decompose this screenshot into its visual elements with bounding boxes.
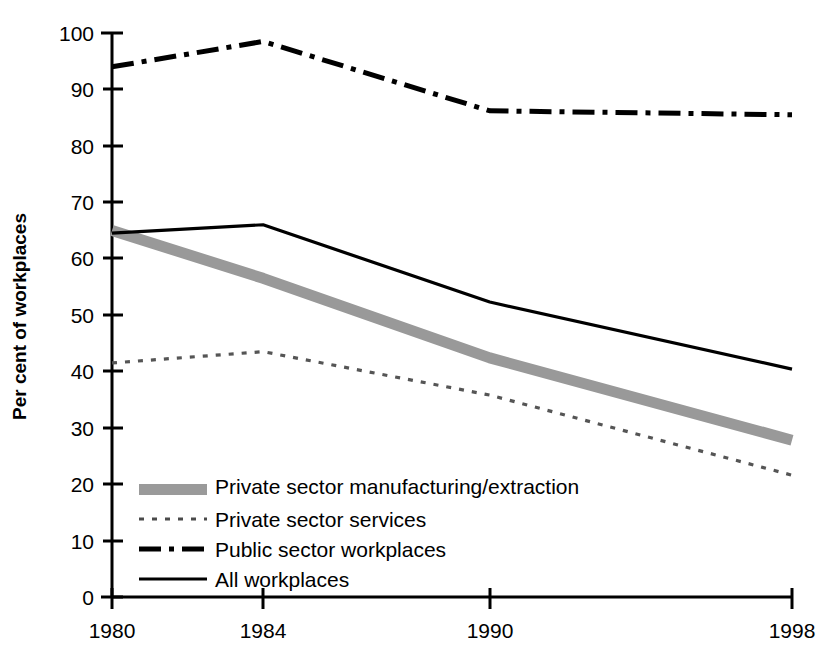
y-tick-label: 100 (59, 22, 94, 45)
legend-label-private-services: Private sector services (215, 508, 426, 531)
line-chart: Per cent of workplaces 100 90 80 70 60 5… (0, 0, 825, 658)
x-tick-label: 1984 (240, 619, 287, 642)
x-tick-label: 1990 (467, 619, 514, 642)
y-tick-label: 0 (82, 586, 94, 609)
series-lines (112, 41, 792, 475)
y-tick-label: 10 (71, 530, 94, 553)
y-tick-label: 60 (71, 247, 94, 270)
legend-label-public-sector: Public sector workplaces (215, 538, 446, 561)
y-tick-label: 30 (71, 417, 94, 440)
y-tick-label: 90 (71, 78, 94, 101)
y-tick-label: 20 (71, 473, 94, 496)
legend: Private sector manufacturing/extraction … (139, 475, 579, 591)
y-tick-label: 80 (71, 135, 94, 158)
y-tick-label: 50 (71, 304, 94, 327)
y-axis-title: Per cent of workplaces (9, 213, 30, 420)
y-tick-label: 40 (71, 360, 94, 383)
legend-label-private-manufacturing: Private sector manufacturing/extraction (215, 475, 579, 498)
x-tick-label: 1980 (89, 619, 136, 642)
chart-container: Per cent of workplaces 100 90 80 70 60 5… (0, 0, 825, 658)
y-tick-label: 70 (71, 191, 94, 214)
legend-label-all-workplaces: All workplaces (215, 568, 349, 591)
x-tick-label: 1998 (769, 619, 816, 642)
series-line-private-manufacturing (112, 230, 792, 440)
legend-swatch-thick-grey-band (139, 484, 207, 495)
x-axis-tick-labels: 1980 1984 1990 1998 (89, 619, 816, 642)
y-axis-tick-labels: 100 90 80 70 60 50 40 30 20 10 0 (59, 22, 94, 609)
series-line-public-sector (112, 41, 792, 114)
